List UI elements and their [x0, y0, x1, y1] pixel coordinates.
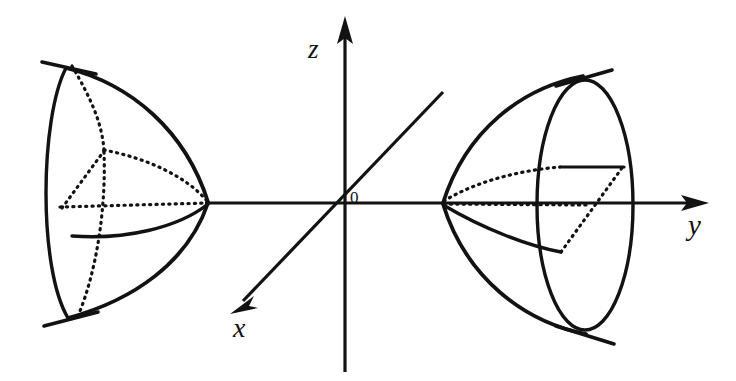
left-sheet-lower-profile: [68, 203, 208, 318]
figure-canvas: z y x 0: [0, 0, 736, 381]
left-sheet-rim-arc: [46, 68, 68, 318]
right-sheet-hidden-upper-arc: [444, 167, 560, 201]
hyperboloid-diagram: [0, 0, 736, 381]
x-axis-line: [243, 92, 443, 301]
right-sheet-hidden-diagonal: [561, 168, 622, 252]
y-axis-label: y: [688, 211, 701, 240]
origin-label: 0: [350, 189, 359, 206]
right-sheet-group: [443, 70, 633, 344]
left-sheet-ruling-bottom: [44, 312, 98, 326]
right-sheet-hidden-horizontal-trace: [444, 204, 588, 205]
left-sheet-group: [42, 62, 208, 326]
right-sheet-ruling-top: [556, 70, 612, 86]
left-sheet-hidden-horizontal-trace: [60, 203, 208, 207]
right-sheet-lower-profile: [443, 204, 586, 334]
left-sheet-hidden-meridian-lower: [78, 152, 104, 316]
z-axis-label: z: [308, 36, 319, 63]
x-axis-label: x: [233, 314, 245, 342]
left-sheet-ruling-top: [42, 62, 96, 74]
left-sheet-cross-section-curve: [72, 204, 208, 237]
left-sheet-hidden-diagonal: [62, 151, 104, 208]
left-sheet-hidden-upper-arc: [104, 150, 207, 201]
